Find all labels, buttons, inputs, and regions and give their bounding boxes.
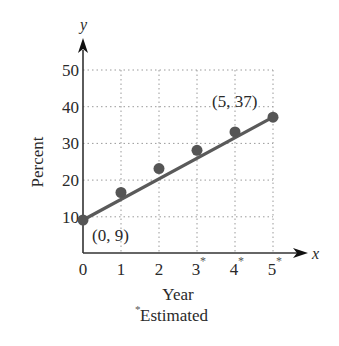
svg-text:*: * [276, 254, 282, 268]
y-axis-variable: y [78, 16, 88, 34]
svg-text:2: 2 [155, 260, 164, 279]
footnote: Estimated [140, 306, 208, 325]
annotation-start: (0, 9) [92, 226, 129, 245]
point-2 [154, 163, 165, 174]
svg-text:1: 1 [117, 260, 126, 279]
point-5 [268, 112, 279, 123]
svg-text:50: 50 [62, 61, 79, 80]
x-axis-label: Year [162, 285, 194, 304]
point-1 [116, 187, 127, 198]
x-tick-labels: 0 1 2 3 4 5 * * * [79, 254, 282, 279]
trend-line [83, 117, 273, 220]
svg-text:0: 0 [79, 260, 88, 279]
y-axis-label: Percent [28, 136, 47, 187]
x-axis-variable: x [311, 245, 319, 262]
point-0 [78, 215, 89, 226]
svg-text:20: 20 [62, 171, 79, 190]
y-tick-labels: 50 40 30 20 10 [62, 61, 79, 227]
point-3 [192, 145, 203, 156]
point-4 [230, 126, 241, 137]
svg-text:40: 40 [62, 98, 79, 117]
annotation-end: (5, 37) [212, 92, 257, 111]
svg-text:5: 5 [268, 260, 277, 279]
svg-text:*: * [200, 254, 206, 268]
svg-text:*: * [238, 254, 244, 268]
chart: y x 50 40 30 20 10 0 1 2 3 4 5 * * * (0,… [0, 0, 339, 346]
svg-text:30: 30 [62, 134, 79, 153]
axes [83, 50, 298, 253]
svg-text:10: 10 [62, 208, 79, 227]
svg-text:3: 3 [192, 260, 201, 279]
